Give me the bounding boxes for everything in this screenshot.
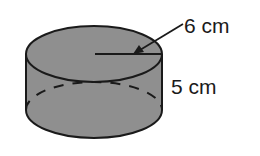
height-label: 5 cm: [171, 75, 217, 98]
cylinder-diagram: 6 cm 5 cm: [0, 0, 260, 156]
radius-label: 6 cm: [184, 14, 230, 37]
